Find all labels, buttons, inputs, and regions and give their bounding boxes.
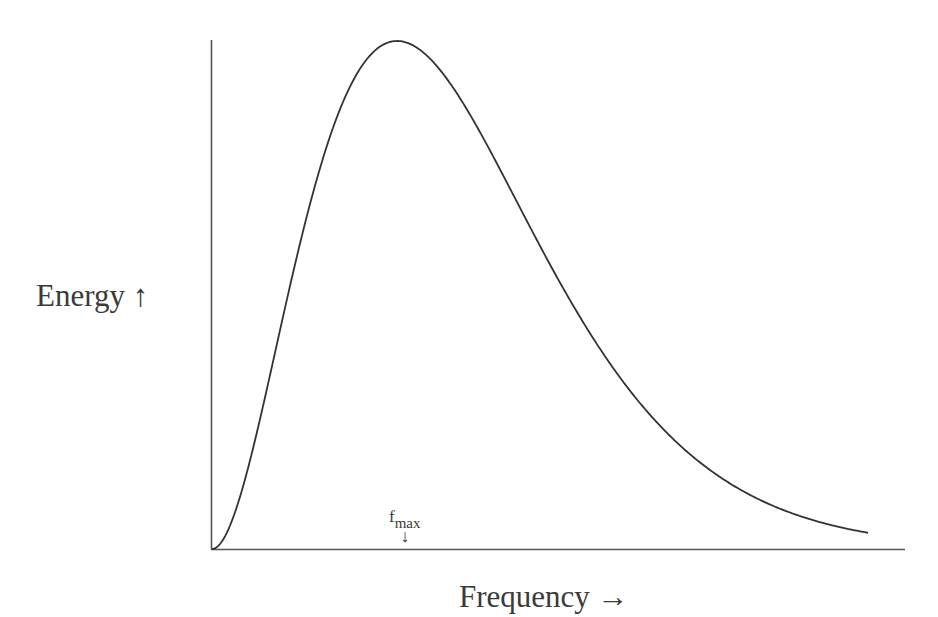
fmax-label: f (389, 507, 395, 526)
x-axis-label: Frequency → (459, 579, 629, 615)
fmax-annotation: fmax (389, 508, 421, 525)
y-axis-label: Energy ↑ (36, 278, 148, 314)
planck-curve (212, 41, 868, 549)
down-arrow-icon: ↓ (401, 527, 410, 545)
